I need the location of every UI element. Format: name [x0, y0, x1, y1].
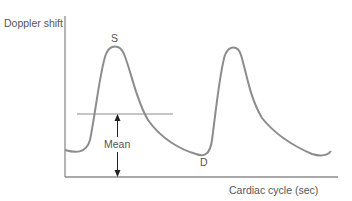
y-axis-label: Doppler shift — [4, 17, 63, 29]
x-axis-label: Cardiac cycle (sec) — [229, 184, 318, 196]
arrow-down-icon — [115, 170, 121, 177]
trough-label-d: D — [200, 156, 208, 168]
doppler-waveform-diagram — [0, 0, 352, 201]
peak-label-s: S — [111, 32, 118, 44]
mean-label: Mean — [104, 138, 130, 150]
arrow-up-icon — [115, 114, 121, 121]
